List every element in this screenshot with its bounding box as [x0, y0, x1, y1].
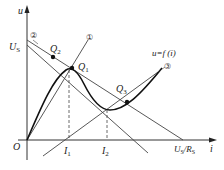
nonlinear-circuit-diagram: u i O US Q2 Q1 Q3 I1 I2 US/RS u=f (i) ① … — [0, 0, 224, 170]
u-axis-label: u — [18, 5, 23, 16]
i-axis-arrow-icon — [209, 138, 217, 143]
line-2-label: ② — [30, 31, 37, 40]
line-3 — [43, 72, 158, 156]
us-label: US — [9, 41, 20, 54]
q1-label: Q1 — [78, 61, 89, 74]
characteristic-curve — [27, 68, 162, 140]
u-axis-arrow-icon — [25, 5, 30, 13]
q3-point — [125, 100, 129, 104]
q2-point — [51, 55, 55, 59]
curve-label: u=f (i) — [152, 48, 176, 58]
i1-label: I1 — [63, 145, 71, 158]
q1-point — [70, 66, 74, 70]
q2-label: Q2 — [50, 43, 61, 56]
i2-label: I2 — [101, 145, 109, 158]
q3-label: Q3 — [116, 83, 127, 96]
line-3-label: ③ — [164, 62, 171, 71]
origin-label: O — [13, 141, 20, 152]
us-rs-label: US/RS — [174, 144, 195, 155]
i-axis-label: i — [210, 143, 213, 154]
line-1-label: ① — [86, 33, 93, 42]
label-2-leader — [33, 40, 38, 44]
